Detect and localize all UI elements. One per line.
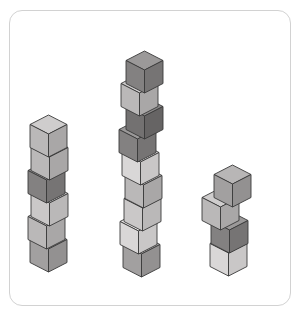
isometric-cube-scene [0, 0, 303, 322]
cube-stacks-illustration [0, 0, 303, 322]
